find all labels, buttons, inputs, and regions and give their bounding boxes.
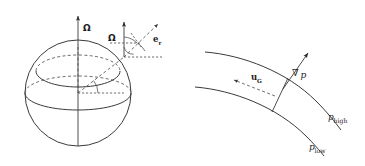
isobar-high-label: p high [328, 112, 347, 125]
local-angle-arc-base [124, 47, 134, 54]
isobar-high-subscript: high [334, 117, 348, 125]
geostrophic-velocity-subscript: G [257, 78, 262, 84]
latitude-angle-arc [94, 81, 98, 93]
isobar-high-curve [205, 52, 341, 130]
pressure-gradient-label: ∇ p [292, 67, 307, 80]
local-rotation-label: Ω [108, 33, 116, 43]
rotating-sphere-diagram: Ω Ω e r [0, 0, 183, 166]
isobar-low-label: p low [309, 142, 326, 154]
pressure-gradient-variable: p [301, 70, 307, 80]
figure-root: Ω Ω e r ∇ p [0, 0, 365, 166]
local-angle-arc-upper [124, 37, 137, 43]
radius-line [78, 57, 124, 93]
geostrophic-velocity-label: u G [251, 72, 262, 84]
isobar-low-curve [195, 87, 324, 156]
pressure-gradient-symbol: ∇ [292, 67, 299, 78]
isobar-low-subscript: low [315, 147, 327, 154]
rotation-axis-label: Ω [83, 23, 91, 33]
radial-unit-vector-label: e r [153, 34, 162, 46]
perpendicular-connector [272, 78, 288, 112]
geostrophic-flow-diagram: ∇ p u G p high p low [183, 0, 365, 166]
local-angle-arc-lower [138, 44, 145, 52]
geostrophic-velocity-arrow [234, 80, 275, 96]
radial-unit-vector-subscript: r [159, 40, 162, 46]
